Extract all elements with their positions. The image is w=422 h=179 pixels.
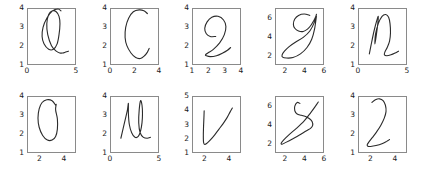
y-tick-label: 5 (175, 92, 189, 100)
x-tick-label: 4 (239, 67, 244, 75)
y-tick-label: 4 (10, 92, 24, 100)
letter-panel-v: 1234524 (165, 88, 249, 177)
letter-stroke-g (276, 9, 323, 64)
y-axis-ticks: 1234 (91, 96, 107, 153)
y-tick-label: 3 (93, 111, 107, 119)
x-axis-ticks: 246 (275, 67, 324, 79)
y-axis-ticks: 12345 (173, 96, 189, 153)
y-tick-label: 1 (175, 61, 189, 69)
y-tick-label: 2 (10, 130, 24, 138)
y-axis-ticks: 246 (256, 96, 272, 153)
pen-stroke-path (121, 101, 151, 139)
y-tick-label: 1 (10, 149, 24, 157)
y-tick-label: 1 (93, 149, 107, 157)
letter-stroke-v (193, 97, 240, 152)
letter-panel-u: 123405 (83, 88, 167, 177)
y-tick-label: 6 (258, 14, 272, 22)
letter-trajectory-grid: 1234051234024123412342462461234051234241… (0, 0, 422, 179)
y-tick-label: 4 (258, 121, 272, 129)
y-tick-label: 3 (93, 23, 107, 31)
y-tick-label: 4 (10, 4, 24, 12)
y-tick-label: 4 (175, 4, 189, 12)
x-tick-label: 2 (282, 155, 287, 163)
y-axis-ticks: 246 (256, 8, 272, 65)
letter-stroke-o (28, 97, 75, 152)
y-tick-label: 1 (10, 61, 24, 69)
plot-axes-box (275, 96, 324, 153)
y-tick-label: 2 (341, 42, 355, 50)
y-tick-label: 2 (10, 42, 24, 50)
x-axis-ticks: 24 (358, 155, 407, 167)
x-axis-ticks: 05 (358, 67, 407, 79)
x-tick-label: 6 (322, 155, 327, 163)
y-axis-ticks: 1234 (339, 96, 355, 153)
y-tick-label: 2 (341, 130, 355, 138)
x-axis-ticks: 024 (110, 67, 159, 79)
letter-panel-n: 123405 (331, 0, 415, 89)
letter-panel-y: 246246 (248, 88, 332, 177)
letter-panel-e: 12341234 (165, 0, 249, 89)
x-axis-ticks: 05 (27, 67, 76, 79)
y-tick-label: 2 (93, 130, 107, 138)
y-tick-label: 3 (175, 23, 189, 31)
y-tick-label: 3 (10, 23, 24, 31)
y-tick-label: 3 (341, 23, 355, 31)
y-tick-label: 4 (341, 92, 355, 100)
x-tick-label: 4 (61, 155, 66, 163)
letter-panel-a: 123405 (0, 0, 84, 89)
x-axis-ticks: 24 (192, 155, 241, 167)
y-tick-label: 1 (175, 149, 189, 157)
pen-stroke-path (125, 10, 149, 59)
x-tick-label: 4 (157, 67, 162, 75)
x-tick-label: 2 (206, 67, 211, 75)
letter-panel-g: 246246 (248, 0, 332, 89)
y-tick-label: 4 (258, 33, 272, 41)
plot-axes-box (192, 96, 241, 153)
pen-stroke-path (42, 9, 68, 53)
letter-panel-z: 123424 (331, 88, 415, 177)
x-tick-label: 2 (282, 67, 287, 75)
y-tick-label: 2 (258, 52, 272, 60)
x-tick-label: 6 (322, 67, 327, 75)
plot-axes-box (358, 8, 407, 65)
letter-stroke-n (359, 9, 406, 64)
plot-axes-box (27, 96, 76, 153)
x-tick-label: 2 (37, 155, 42, 163)
pen-stroke-path (367, 99, 389, 147)
plot-axes-box (358, 96, 407, 153)
letter-stroke-u (111, 97, 158, 152)
pen-stroke-path (369, 14, 398, 55)
y-tick-label: 4 (175, 106, 189, 114)
letter-stroke-e (193, 9, 240, 64)
x-tick-label: 4 (302, 155, 307, 163)
x-tick-label: 4 (226, 155, 231, 163)
y-tick-label: 4 (93, 4, 107, 12)
y-axis-ticks: 1234 (8, 8, 24, 65)
pen-stroke-path (281, 102, 318, 144)
y-tick-label: 4 (93, 92, 107, 100)
plot-axes-box (110, 8, 159, 65)
pen-stroke-path (203, 108, 232, 144)
x-tick-label: 0 (108, 155, 113, 163)
y-tick-label: 2 (175, 135, 189, 143)
plot-axes-box (275, 8, 324, 65)
y-tick-label: 2 (258, 140, 272, 148)
y-tick-label: 4 (341, 4, 355, 12)
x-tick-label: 3 (222, 67, 227, 75)
y-axis-ticks: 1234 (339, 8, 355, 65)
x-tick-label: 4 (302, 67, 307, 75)
y-tick-label: 1 (93, 61, 107, 69)
pen-stroke-path (282, 14, 317, 58)
x-tick-label: 2 (132, 67, 137, 75)
y-axis-ticks: 1234 (8, 96, 24, 153)
pen-stroke-path (205, 16, 231, 57)
y-axis-ticks: 1234 (173, 8, 189, 65)
y-axis-ticks: 1234 (91, 8, 107, 65)
plot-axes-box (27, 8, 76, 65)
x-tick-label: 0 (108, 67, 113, 75)
y-tick-label: 1 (341, 61, 355, 69)
x-tick-label: 0 (356, 67, 361, 75)
letter-stroke-a (28, 9, 75, 64)
plot-axes-box (110, 96, 159, 153)
plot-axes-box (192, 8, 241, 65)
